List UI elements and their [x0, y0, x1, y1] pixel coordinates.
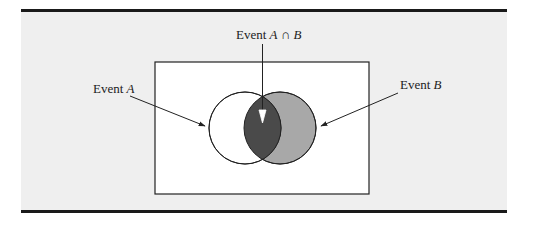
label-intersection: Event A ∩ B	[236, 28, 301, 41]
label-event-a: Event A	[93, 82, 135, 95]
label-event-b: Event B	[400, 78, 442, 91]
